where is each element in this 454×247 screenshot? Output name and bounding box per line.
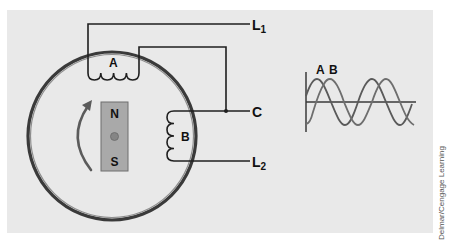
wave-a-label: A [316,63,325,77]
wave-b-label: B [329,63,338,77]
terminal-c-label: C [252,104,262,120]
coil-b-label: B [181,130,190,144]
rotor-pivot [111,133,119,141]
diagram-panel [7,10,433,233]
image-credit: Delmar/Cengage Learning [437,146,446,240]
coil-a-label: A [109,56,118,70]
north-pole-label: N [110,107,119,121]
south-pole-label: S [110,155,118,169]
junction-dot [224,109,228,113]
motor-diagram: A B L1 C L2 N S A B [0,0,454,247]
rotor-magnet: N S [101,102,128,171]
